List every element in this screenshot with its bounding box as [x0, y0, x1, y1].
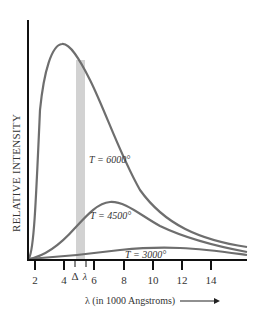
delta-lambda-band — [76, 60, 85, 260]
tick-label: 10 — [148, 274, 160, 286]
x-tick-labels: 2 4 6 8 10 12 14 — [32, 274, 217, 286]
tick-label: 6 — [91, 274, 97, 286]
tick-label: 14 — [206, 274, 218, 286]
tick-label: 8 — [121, 274, 127, 286]
lambda-label: λ — [82, 271, 88, 282]
band-ticks — [75, 260, 86, 267]
label-t6000: T = 6000° — [89, 154, 130, 165]
x-axis-label: λ (in 1000 Angstroms) — [85, 295, 175, 307]
tick-label: 12 — [177, 274, 188, 286]
x-axis-arrow-icon — [214, 298, 220, 304]
curve-6000 — [29, 44, 247, 258]
label-t3000: T = 3000° — [125, 249, 166, 260]
tick-label: 2 — [32, 274, 38, 286]
blackbody-chart: 2 4 6 8 10 12 14 Δ λ T = 6000° T = 4500°… — [0, 0, 265, 318]
tick-label: 4 — [61, 274, 67, 286]
delta-label: Δ — [71, 270, 78, 282]
y-axis-label: RELATIVE INTENSITY — [10, 114, 22, 232]
label-t4500: T = 4500° — [90, 210, 131, 221]
x-ticks — [35, 260, 211, 270]
